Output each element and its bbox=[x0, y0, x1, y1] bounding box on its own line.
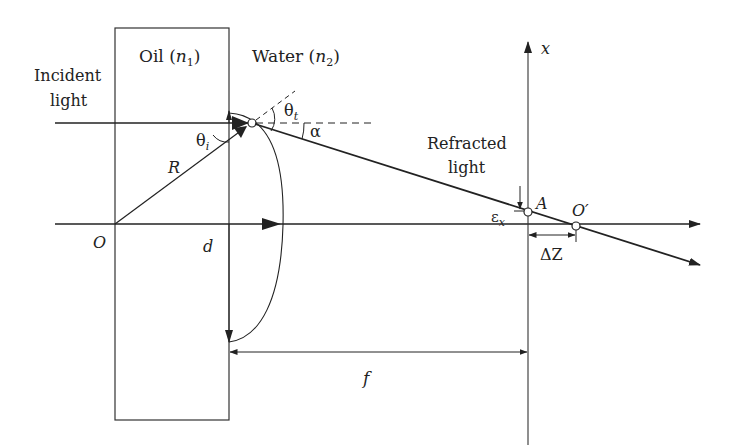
refracted-label-line1: Refracted bbox=[427, 134, 507, 153]
water-label: Water (n2) bbox=[252, 46, 340, 69]
incident-label-line2: light bbox=[50, 91, 88, 110]
point-a-label: A bbox=[534, 194, 548, 213]
oil-label: Oil (n1) bbox=[139, 46, 200, 69]
epsilon-label: εx bbox=[491, 208, 506, 229]
x-axis-label: x bbox=[541, 39, 550, 58]
refracted-label-line2: light bbox=[448, 158, 486, 177]
droplet-arc bbox=[229, 113, 283, 342]
d-label: d bbox=[203, 237, 213, 256]
point-a bbox=[524, 208, 532, 216]
alpha-arc bbox=[302, 123, 304, 139]
delta-z-label: ΔZ bbox=[540, 245, 563, 264]
radius-arrowhead-icon bbox=[234, 126, 247, 138]
theta-i-label: θi bbox=[196, 131, 209, 153]
alpha-label: α bbox=[310, 122, 321, 141]
theta-t-arc bbox=[271, 108, 275, 131]
radius-line bbox=[115, 127, 246, 224]
origin-label: O bbox=[93, 233, 106, 252]
interface-up-arrowhead-icon bbox=[226, 110, 232, 120]
theta-t-label: θt bbox=[284, 101, 299, 123]
point-o-prime bbox=[572, 222, 580, 230]
axis-mid-arrowhead-icon bbox=[262, 218, 281, 230]
refraction-diagram: Oil (n1) Water (n2) Incident light Refra… bbox=[0, 0, 739, 447]
incident-label-line1: Incident bbox=[34, 66, 102, 85]
point-o-prime-label: O′ bbox=[572, 201, 589, 220]
incidence-point bbox=[248, 119, 256, 127]
focal-label: f bbox=[361, 368, 372, 388]
radius-label: R bbox=[167, 158, 180, 177]
